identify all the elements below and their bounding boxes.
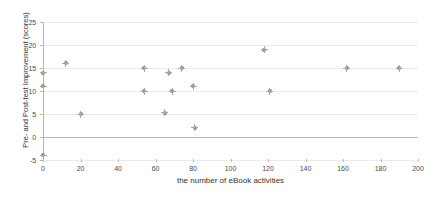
data-point [163,111,167,115]
y-tick-mark [40,22,43,23]
x-tick-mark [306,159,307,162]
x-axis-title: the number of eBook activities [43,176,418,185]
x-tick-label: 80 [182,165,204,172]
x-tick-mark [81,159,82,162]
x-axis-line [43,137,418,138]
data-point [79,112,83,116]
y-tick-mark [40,91,43,92]
gridline [43,22,418,23]
data-point [262,48,266,52]
y-tick-mark [40,45,43,46]
x-tick-mark [43,159,44,162]
data-point [180,66,184,70]
x-tick-mark [118,159,119,162]
data-point [167,71,171,75]
x-tick-label: 40 [107,165,129,172]
x-tick-mark [343,159,344,162]
x-tick-mark [193,159,194,162]
gridline [43,68,418,69]
x-tick-label: 140 [295,165,317,172]
x-tick-label: 200 [407,165,429,172]
x-tick-label: 180 [370,165,392,172]
gridline [43,91,418,92]
y-axis-line [43,22,44,160]
x-tick-mark [231,159,232,162]
x-tick-label: 160 [332,165,354,172]
x-tick-label: 120 [257,165,279,172]
x-tick-mark [381,159,382,162]
x-tick-mark [418,159,419,162]
data-point [268,89,272,93]
y-tick-label: -5 [20,157,36,164]
y-tick-mark [40,137,43,138]
scatter-plot-figure: -50510152025 020406080100120140160180200… [0,0,439,198]
y-tick-mark [40,114,43,115]
data-point [41,71,45,75]
x-tick-mark [156,159,157,162]
x-tick-label: 0 [32,165,54,172]
x-tick-mark [268,159,269,162]
x-tick-label: 100 [220,165,242,172]
data-point [345,66,349,70]
x-tick-label: 20 [70,165,92,172]
data-point [64,61,68,65]
gridline [43,114,418,115]
gridline [43,45,418,46]
data-point [193,126,197,130]
x-tick-label: 60 [145,165,167,172]
y-axis-title: Pre- and Post-test Improvement (scores) [22,5,30,155]
